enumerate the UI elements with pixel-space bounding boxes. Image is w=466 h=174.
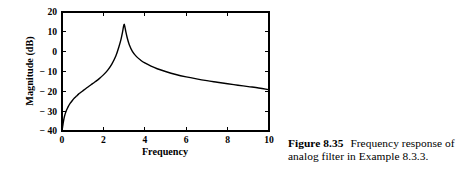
x-axis-tick-labels: 0246810: [60, 134, 274, 145]
figure-caption: Figure 8.35Frequency response of analog …: [288, 137, 464, 163]
caption-text: Figure 8.35Frequency response of analog …: [288, 137, 464, 163]
y-tick-label: − 20: [40, 86, 58, 97]
figure-container: 20100− 10− 20− 30− 40 0246810 Frequency …: [0, 0, 285, 174]
y-axis-tick-labels: 20100− 10− 20− 30− 40: [40, 6, 58, 136]
y-tick-label: 0: [52, 46, 57, 57]
y-tick-label: − 40: [40, 125, 58, 136]
caption-label: Figure 8.35: [288, 137, 343, 149]
x-axis-title: Frequency: [142, 146, 188, 157]
frequency-response-chart: 20100− 10− 20− 30− 40 0246810 Frequency …: [0, 0, 285, 174]
y-tick-label: − 30: [40, 106, 58, 117]
y-tick-label: 10: [47, 26, 57, 37]
y-axis-title: Magnitude (dB): [24, 36, 36, 105]
y-tick-label: 20: [47, 6, 57, 17]
x-tick-label: 6: [184, 134, 189, 145]
y-tick-label: − 10: [40, 66, 58, 77]
x-tick-label: 10: [264, 134, 274, 145]
x-tick-label: 0: [60, 134, 65, 145]
x-tick-label: 2: [101, 134, 106, 145]
x-tick-label: 4: [142, 134, 147, 145]
x-tick-label: 8: [225, 134, 230, 145]
